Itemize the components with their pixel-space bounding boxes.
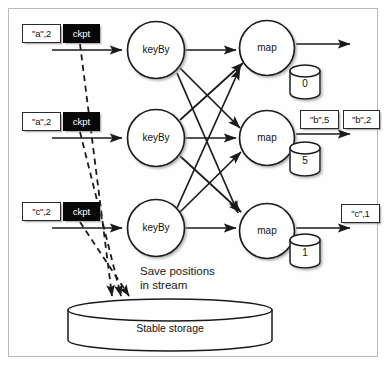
- state-cylinder-3-value: 1: [302, 248, 308, 258]
- checkpoint-barrier-3: ckpt: [63, 202, 100, 221]
- save-positions-caption: Save positions in stream: [140, 264, 215, 293]
- checkpoint-barrier-2: ckpt: [63, 112, 100, 131]
- shuffle-edges: [177, 50, 243, 228]
- keyby-node-1-label: keyBy: [142, 45, 169, 55]
- input-token-2: "a",2: [22, 112, 61, 131]
- figure-canvas: "a",2 ckpt "a",2 ckpt "c",2 ckpt keyBy k…: [0, 0, 392, 377]
- checkpoint-barrier-1: ckpt: [63, 24, 100, 43]
- edges-layer: [0, 0, 392, 377]
- keyby-node-2-label: keyBy: [142, 133, 169, 143]
- state-cylinder-1-value: 0: [302, 79, 308, 89]
- stable-storage-label: Stable storage: [136, 323, 204, 334]
- map-node-2-label: map: [257, 133, 276, 143]
- state-cylinder-2-value: 5: [302, 156, 308, 166]
- output-token-c1: "c",1: [341, 204, 380, 223]
- state-cylinders: [290, 65, 320, 268]
- output-token-b5: "b",5: [300, 110, 339, 129]
- input-token-3: "c",2: [22, 202, 61, 221]
- keyby-node-3-label: keyBy: [142, 223, 169, 233]
- map-node-3-label: map: [257, 226, 276, 236]
- input-token-1: "a",2: [22, 24, 61, 43]
- map-node-1-label: map: [257, 43, 276, 53]
- checkpoint-dashed-arrows: [80, 44, 129, 296]
- output-token-b2: "b",2: [343, 110, 380, 129]
